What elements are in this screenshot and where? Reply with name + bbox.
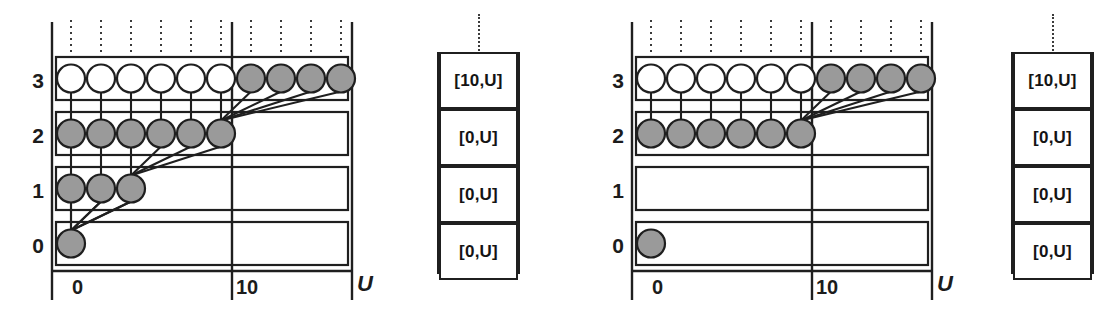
state-box-connector-left <box>478 14 480 54</box>
state-cell-0: [10,U] <box>439 52 518 109</box>
state-cell-3: [0,U] <box>439 223 518 280</box>
state-box-left: [10,U] [0,U] [0,U] [0,U] <box>437 52 520 274</box>
node-circle-gray <box>697 120 725 148</box>
transition-line <box>221 92 281 121</box>
state-cell-0-text: [10,U] <box>1028 71 1076 91</box>
node-circle-gray <box>877 65 905 93</box>
node-circle-gray <box>787 120 815 148</box>
node-circle-white <box>757 65 785 93</box>
node-circle-gray <box>57 120 85 148</box>
node-circle-white <box>637 65 665 93</box>
transition-line <box>71 202 131 231</box>
level-bar-0 <box>56 222 348 265</box>
row-label-3: 3 <box>22 70 44 91</box>
row-label-2: 2 <box>22 125 44 146</box>
node-circle-gray <box>177 120 205 148</box>
state-cell-3-text: [0,U] <box>459 242 498 262</box>
row-label-1: 1 <box>22 180 44 201</box>
state-cell-3: [0,U] <box>1013 223 1092 280</box>
figure-canvas: 3 2 1 0 0 10 U [10,U] [0,U] [0,U] [0,U] … <box>0 0 1120 309</box>
node-circle-gray <box>847 65 875 93</box>
node-circle-gray <box>757 120 785 148</box>
node-circle-gray <box>327 65 355 93</box>
transition-line <box>131 147 191 176</box>
node-circle-gray <box>117 120 145 148</box>
transition-line <box>801 92 921 121</box>
node-circle-white <box>147 65 175 93</box>
node-circle-white <box>667 65 695 93</box>
transition-line <box>221 92 341 121</box>
node-circle-gray <box>297 65 325 93</box>
node-circle-white <box>727 65 755 93</box>
row-label-0: 0 <box>602 235 624 256</box>
node-circle-white <box>697 65 725 93</box>
node-circle-gray <box>87 120 115 148</box>
state-box-right: [10,U] [0,U] [0,U] [0,U] <box>1011 52 1094 274</box>
axis-tick-0: 0 <box>652 277 663 297</box>
state-cell-2-text: [0,U] <box>459 185 498 205</box>
state-cell-2: [0,U] <box>439 166 518 223</box>
node-circle-gray <box>637 230 665 258</box>
axis-tick-10: 10 <box>816 277 838 297</box>
node-circle-gray <box>907 65 935 93</box>
node-circle-white <box>207 65 235 93</box>
state-box-connector-right <box>1052 14 1054 54</box>
panel-right: 3 2 1 0 0 10 U [10,U] [0,U] [0,U] [0,U] <box>580 0 1120 309</box>
node-circle-white <box>87 65 115 93</box>
node-circle-white <box>787 65 815 93</box>
node-circle-gray <box>87 175 115 203</box>
row-label-0: 0 <box>22 235 44 256</box>
node-circle-white <box>117 65 145 93</box>
axis-tick-10: 10 <box>236 277 258 297</box>
level-bar-1 <box>636 167 928 210</box>
node-circle-gray <box>667 120 695 148</box>
node-circle-gray <box>727 120 755 148</box>
axis-tick-0: 0 <box>72 277 83 297</box>
level-bar-0 <box>636 222 928 265</box>
state-cell-1-text: [0,U] <box>1033 128 1072 148</box>
state-cell-1: [0,U] <box>1013 109 1092 166</box>
state-cell-0: [10,U] <box>1013 52 1092 109</box>
node-circle-gray <box>267 65 295 93</box>
node-circle-gray <box>817 65 845 93</box>
node-circle-gray <box>57 175 85 203</box>
node-circle-white <box>177 65 205 93</box>
node-circle-gray <box>117 175 145 203</box>
panel-left: 3 2 1 0 0 10 U [10,U] [0,U] [0,U] [0,U] <box>0 0 560 309</box>
node-circle-gray <box>147 120 175 148</box>
node-circle-gray <box>237 65 265 93</box>
axis-tick-u: U <box>357 273 373 295</box>
state-cell-2: [0,U] <box>1013 166 1092 223</box>
state-cell-1-text: [0,U] <box>459 128 498 148</box>
node-circle-gray <box>57 230 85 258</box>
state-cell-1: [0,U] <box>439 109 518 166</box>
node-circle-white <box>57 65 85 93</box>
transition-line <box>71 202 101 231</box>
node-circle-gray <box>207 120 235 148</box>
state-cell-2-text: [0,U] <box>1033 185 1072 205</box>
transition-line <box>801 92 861 121</box>
row-label-3: 3 <box>602 70 624 91</box>
row-label-2: 2 <box>602 125 624 146</box>
state-cell-0-text: [10,U] <box>454 71 502 91</box>
state-cell-3-text: [0,U] <box>1033 242 1072 262</box>
row-label-1: 1 <box>602 180 624 201</box>
node-circle-gray <box>637 120 665 148</box>
axis-tick-u: U <box>937 273 953 295</box>
